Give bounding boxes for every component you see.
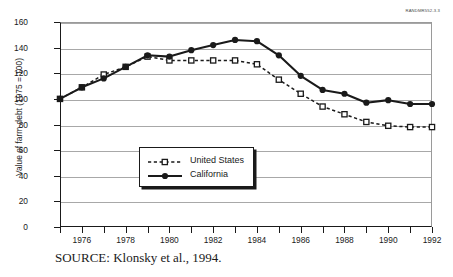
data-point xyxy=(342,112,347,117)
data-point xyxy=(276,77,281,82)
data-point xyxy=(298,91,303,96)
y-tick-mark-100 xyxy=(54,99,60,100)
data-point xyxy=(364,119,369,124)
y-tick-label-120: 120 xyxy=(0,68,28,78)
series-california xyxy=(57,37,435,107)
x-tick-label-1992: 1992 xyxy=(410,235,453,245)
data-point xyxy=(144,52,150,58)
data-point xyxy=(79,84,85,90)
legend-marker-open-square-icon xyxy=(147,154,183,166)
data-point xyxy=(386,123,391,128)
y-tick-label-20: 20 xyxy=(0,196,28,206)
legend-label: California xyxy=(190,169,228,179)
data-point xyxy=(320,104,325,109)
x-tick-mark-1985 xyxy=(279,227,280,233)
y-tick-label-160: 160 xyxy=(0,17,28,27)
series-line xyxy=(60,40,432,104)
y-tick-mark-140 xyxy=(54,48,60,49)
y-tick-mark-20 xyxy=(54,201,60,202)
series-line xyxy=(60,57,432,127)
y-tick-label-60: 60 xyxy=(0,145,28,155)
legend-item-united-states: United States xyxy=(147,153,244,167)
x-tick-label-1976: 1976 xyxy=(60,235,104,245)
x-tick-mark-1978 xyxy=(126,227,127,233)
x-tick-label-1984: 1984 xyxy=(235,235,279,245)
data-point xyxy=(166,53,172,59)
data-point xyxy=(408,124,413,129)
source-caption: SOURCE: Klonsky et al., 1994. xyxy=(55,250,221,266)
legend-marker-filled-circle-icon xyxy=(147,168,183,180)
data-point xyxy=(254,62,259,67)
y-tick-mark-120 xyxy=(54,73,60,74)
data-point xyxy=(298,73,304,79)
x-tick-mark-1980 xyxy=(169,227,170,233)
x-tick-label-1986: 1986 xyxy=(279,235,323,245)
report-figure-tag: RANDMR552-3.3 xyxy=(405,8,440,13)
series-united-states xyxy=(57,54,434,130)
x-tick-mark-1976 xyxy=(82,227,83,233)
x-tick-mark-1979 xyxy=(148,227,149,233)
data-point xyxy=(210,42,216,48)
x-tick-mark-1977 xyxy=(104,227,105,233)
data-point xyxy=(276,52,282,58)
data-point xyxy=(385,97,391,103)
x-tick-mark-1990 xyxy=(388,227,389,233)
y-tick-label-0: 0 xyxy=(0,222,28,232)
data-point xyxy=(363,100,369,106)
x-tick-mark-1988 xyxy=(344,227,345,233)
data-point xyxy=(211,58,216,63)
x-tick-label-1978: 1978 xyxy=(104,235,148,245)
chart-legend: United StatesCalifornia xyxy=(139,147,254,187)
data-point xyxy=(319,87,325,93)
y-tick-label-140: 140 xyxy=(0,43,28,53)
x-tick-mark-1989 xyxy=(366,227,367,233)
legend-item-california: California xyxy=(147,167,244,181)
data-point xyxy=(407,101,413,107)
y-tick-label-80: 80 xyxy=(0,120,28,130)
x-tick-label-1988: 1988 xyxy=(322,235,366,245)
data-point xyxy=(254,38,260,44)
x-tick-mark-1992 xyxy=(432,227,433,233)
y-tick-label-40: 40 xyxy=(0,171,28,181)
y-tick-label-100: 100 xyxy=(0,94,28,104)
data-point xyxy=(429,101,435,107)
x-tick-mark-1984 xyxy=(257,227,258,233)
data-point xyxy=(101,75,107,81)
x-tick-mark-1991 xyxy=(410,227,411,233)
legend-label: United States xyxy=(190,155,244,165)
y-tick-mark-40 xyxy=(54,176,60,177)
y-tick-mark-80 xyxy=(54,125,60,126)
data-point xyxy=(429,124,434,129)
x-tick-mark-1975 xyxy=(60,227,61,233)
figure-container: RANDMR552-3.3 Value of farm debt (1975 =… xyxy=(0,0,453,277)
series-layer xyxy=(60,22,432,227)
data-point xyxy=(123,64,129,70)
data-point xyxy=(341,91,347,97)
x-tick-mark-1986 xyxy=(301,227,302,233)
x-tick-mark-1981 xyxy=(191,227,192,233)
x-tick-mark-1982 xyxy=(213,227,214,233)
data-point xyxy=(189,58,194,63)
x-tick-label-1980: 1980 xyxy=(147,235,191,245)
x-tick-mark-1987 xyxy=(323,227,324,233)
data-point xyxy=(188,47,194,53)
x-tick-mark-1983 xyxy=(235,227,236,233)
data-point xyxy=(232,37,238,43)
y-tick-mark-60 xyxy=(54,150,60,151)
y-tick-mark-160 xyxy=(54,22,60,23)
data-point xyxy=(232,58,237,63)
x-tick-label-1982: 1982 xyxy=(191,235,235,245)
x-tick-label-1990: 1990 xyxy=(366,235,410,245)
